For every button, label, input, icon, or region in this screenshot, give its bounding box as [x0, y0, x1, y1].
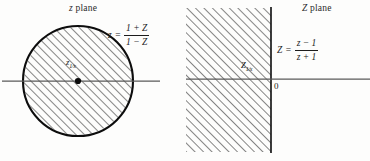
Z-plane-title: Z plane	[302, 3, 332, 13]
z-formula-lhs: z	[108, 30, 112, 40]
complex-plane-mapping-figure: z plane z = 1 + Z 1 − Z z1⁄x Z plane Z =…	[0, 0, 370, 161]
z-plane-panel: z plane z = 1 + Z 1 − Z z1⁄x	[0, 0, 185, 161]
Z-point-subscript: 1⁄x	[246, 66, 253, 72]
z-formula-numerator: 1 + Z	[124, 23, 149, 34]
Z-formula-lhs: Z	[277, 45, 282, 55]
Z-plane-origin-label: 0	[274, 81, 279, 91]
Z-plane-point-label: Z1⁄x	[241, 60, 252, 72]
Z-formula-numerator: z − 1	[295, 38, 319, 49]
Z-plane-panel: Z plane Z = z − 1 z + 1 Z1⁄x 0	[185, 0, 370, 161]
Z-formula-equals: =	[286, 45, 291, 55]
z-plane-title-variable: z	[69, 3, 73, 13]
Z-plane-title-word: plane	[310, 3, 332, 13]
z-plane-formula: z = 1 + Z 1 − Z	[108, 23, 149, 47]
z-plane-title-word: plane	[75, 3, 97, 13]
z-formula-equals: =	[115, 30, 120, 40]
z-formula-denominator: 1 − Z	[124, 36, 149, 47]
z-point-subscript: 1⁄x	[69, 63, 76, 69]
Z-formula-denominator: z + 1	[295, 51, 319, 62]
z-plane-title: z plane	[69, 3, 97, 13]
z-plane-point-label: z1⁄x	[66, 57, 76, 69]
Z-formula-fraction: z − 1 z + 1	[295, 38, 319, 62]
Z-plane-formula: Z = z − 1 z + 1	[277, 38, 318, 62]
Z-plane-title-variable: Z	[302, 3, 307, 13]
z-formula-fraction: 1 + Z 1 − Z	[124, 23, 149, 47]
